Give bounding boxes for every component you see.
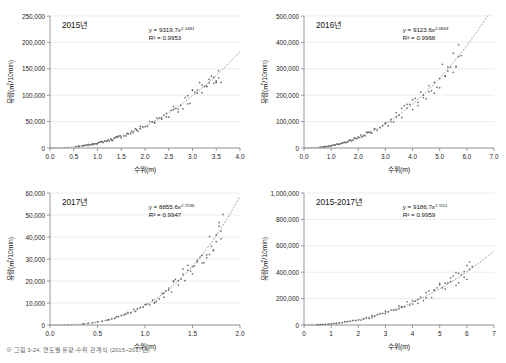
svg-text:1,000,000: 1,000,000 [271, 190, 300, 197]
chart-2017-points [82, 214, 223, 325]
svg-text:60,000: 60,000 [25, 190, 45, 197]
chart-2015-2017-points [317, 261, 473, 325]
chart-2015-points [75, 70, 222, 148]
svg-text:4.0: 4.0 [408, 153, 417, 160]
svg-text:1: 1 [329, 330, 333, 337]
chart-2017-ylabel: 유량(㎥/10min) [6, 237, 15, 281]
svg-text:0: 0 [302, 330, 306, 337]
svg-text:0.0: 0.0 [46, 330, 55, 337]
chart-2017-title: 2017년 [62, 197, 88, 207]
svg-text:2.0: 2.0 [354, 153, 363, 160]
svg-text:600,000: 600,000 [276, 242, 300, 249]
svg-text:0.0: 0.0 [46, 153, 55, 160]
figure-caption: ※ 그림 3-24. 연도별 유량-수위 관계식 (2015~2017년) [6, 345, 150, 354]
chart-2017-equation: y = 8855.6x2.7236 [149, 203, 195, 211]
svg-text:10,000: 10,000 [25, 300, 45, 307]
chart-2015-2017-ylabel: 유량(㎥/10min) [260, 237, 269, 281]
svg-text:50,000: 50,000 [25, 212, 45, 219]
svg-text:3.5: 3.5 [212, 153, 221, 160]
svg-text:250,000: 250,000 [22, 13, 46, 20]
chart-2016-xlabel: 수위(m) [388, 166, 410, 174]
chart-2015-r2: R² = 0.9953 [149, 34, 182, 41]
svg-text:0: 0 [295, 322, 299, 329]
svg-text:4.0: 4.0 [236, 153, 245, 160]
chart-2015-svg: 050,000100,000150,000200,000250,0000.00.… [4, 6, 248, 176]
svg-text:40,000: 40,000 [25, 234, 45, 241]
chart-2015-title: 2015년 [62, 20, 88, 30]
chart-2016-equation: y = 9123.6x2.0944 [403, 26, 449, 34]
svg-text:50,000: 50,000 [25, 118, 45, 125]
chart-panel-2015-2017: 0200,000400,000600,000800,0001,000,00001… [258, 183, 502, 353]
svg-text:500,000: 500,000 [276, 13, 300, 20]
svg-text:100,000: 100,000 [276, 118, 300, 125]
svg-text:3.0: 3.0 [188, 153, 197, 160]
chart-2015-2017-trendline [304, 251, 494, 325]
svg-text:6.0: 6.0 [462, 153, 471, 160]
chart-2016-svg: 0100,000200,000300,000400,000500,0000.01… [258, 6, 502, 176]
svg-text:150,000: 150,000 [22, 65, 46, 72]
svg-text:3: 3 [384, 330, 388, 337]
svg-text:2.0: 2.0 [236, 330, 245, 337]
chart-2016-title: 2016년 [316, 20, 342, 30]
chart-2015-2017-title: 2015-2017년 [316, 197, 363, 207]
chart-2015-2017-equation: y = 9186.7x2.1111 [403, 203, 448, 211]
svg-text:1.0: 1.0 [93, 153, 102, 160]
svg-text:3.0: 3.0 [381, 153, 390, 160]
chart-2016-trendline [304, 15, 489, 148]
chart-2017-r2: R² = 0.9947 [149, 211, 182, 218]
svg-text:0: 0 [41, 322, 45, 329]
svg-text:100,000: 100,000 [22, 92, 46, 99]
svg-text:6: 6 [465, 330, 469, 337]
svg-text:2: 2 [357, 330, 361, 337]
svg-text:1.5: 1.5 [117, 153, 126, 160]
svg-text:5: 5 [438, 330, 442, 337]
svg-text:1.5: 1.5 [188, 330, 197, 337]
chart-2017-trendline [50, 196, 240, 325]
svg-text:20,000: 20,000 [25, 278, 45, 285]
svg-text:2.5: 2.5 [164, 153, 173, 160]
svg-text:4: 4 [411, 330, 415, 337]
svg-text:0.0: 0.0 [300, 153, 309, 160]
chart-2016-r2: R² = 0.9968 [403, 34, 436, 41]
svg-text:5.0: 5.0 [435, 153, 444, 160]
chart-2015-ylabel: 유량(㎥/10min) [6, 60, 15, 104]
svg-text:200,000: 200,000 [22, 39, 46, 46]
svg-text:1.0: 1.0 [141, 330, 150, 337]
chart-2016-points [319, 44, 462, 148]
chart-panel-2015: 050,000100,000150,000200,000250,0000.00.… [4, 6, 248, 176]
svg-text:300,000: 300,000 [276, 65, 300, 72]
svg-text:200,000: 200,000 [276, 92, 300, 99]
svg-text:1.0: 1.0 [327, 153, 336, 160]
svg-text:7.0: 7.0 [490, 153, 499, 160]
chart-2016-ylabel: 유량(㎥/10min) [260, 60, 269, 104]
svg-text:0.5: 0.5 [93, 330, 102, 337]
svg-text:0.5: 0.5 [69, 153, 78, 160]
svg-text:30,000: 30,000 [25, 256, 45, 263]
chart-2017-svg: 010,00020,00030,00040,00050,00060,0000.0… [4, 183, 248, 353]
chart-panel-2016: 0100,000200,000300,000400,000500,0000.01… [258, 6, 502, 176]
chart-panel-2017: 010,00020,00030,00040,00050,00060,0000.0… [4, 183, 248, 353]
chart-2015-2017-r2: R² = 0.9959 [403, 211, 436, 218]
chart-2015-equation: y = 9319.7x2.1481 [149, 26, 195, 34]
svg-text:400,000: 400,000 [276, 269, 300, 276]
svg-text:400,000: 400,000 [276, 39, 300, 46]
svg-text:2.0: 2.0 [141, 153, 150, 160]
chart-2015-2017-svg: 0200,000400,000600,000800,0001,000,00001… [258, 183, 502, 353]
svg-text:7: 7 [492, 330, 496, 337]
chart-2015-2017-xlabel: 수위(m) [388, 343, 410, 351]
chart-2015-xlabel: 수위(m) [134, 166, 156, 174]
chart-2015-trendline [50, 51, 240, 148]
figure-grid: 050,000100,000150,000200,000250,0000.00.… [0, 0, 506, 363]
svg-text:0: 0 [41, 145, 45, 152]
svg-text:0: 0 [295, 145, 299, 152]
svg-text:200,000: 200,000 [276, 295, 300, 302]
svg-text:800,000: 800,000 [276, 216, 300, 223]
